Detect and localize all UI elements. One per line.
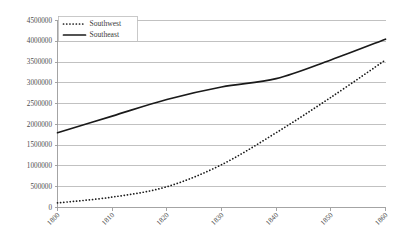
x-axis-tick-label: 1830 <box>210 211 226 227</box>
x-axis-tick-label: 1820 <box>155 211 171 227</box>
y-axis-tick-label: 500000 <box>30 183 52 191</box>
x-axis-tick-label: 1860 <box>374 211 390 227</box>
x-axis-tick-label: 1840 <box>264 211 280 227</box>
y-axis-tick-label: 1000000 <box>27 162 53 170</box>
chart-canvas: 0500000100000015000002000000250000030000… <box>0 0 409 252</box>
x-axis-tick-label: 1850 <box>319 211 335 227</box>
x-axis-tick-label: 1810 <box>100 211 116 227</box>
y-axis-tick-label: 4000000 <box>27 37 53 45</box>
x-axis-tick-label: 1800 <box>46 211 62 227</box>
series-line-southeast <box>58 39 386 133</box>
y-axis-tick-label: 3000000 <box>27 79 53 87</box>
legend-label-southeast: Southeast <box>90 30 120 39</box>
series-line-southwest <box>58 60 386 203</box>
y-axis-tick-label: 4500000 <box>27 17 53 25</box>
line-chart: 0500000100000015000002000000250000030000… <box>0 0 409 252</box>
legend-label-southwest: Southwest <box>90 19 123 28</box>
y-axis-tick-label: 2500000 <box>27 100 53 108</box>
y-axis-tick-label: 3500000 <box>27 58 53 66</box>
y-axis-tick-label: 1500000 <box>27 141 53 149</box>
y-axis-tick-label: 2000000 <box>27 121 53 129</box>
y-axis-tick-label: 0 <box>48 204 52 212</box>
